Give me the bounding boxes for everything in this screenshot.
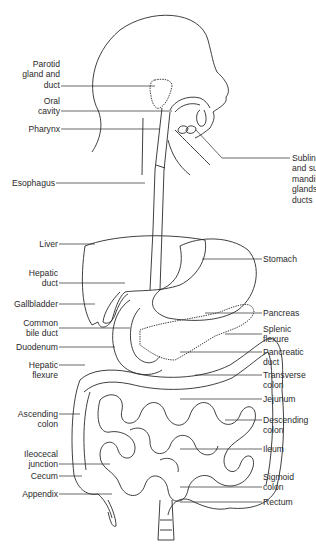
label-rectum: Rectum <box>263 497 293 507</box>
label-liver: Liver <box>39 239 58 249</box>
label-ileum: Ileum <box>263 444 284 454</box>
label-jejunum: Jejunum <box>263 394 295 404</box>
label-pancreas: Pancreas <box>263 308 299 318</box>
label-sigmoid-colon: Sigmoid colon <box>263 472 294 493</box>
label-cecum: Cecum <box>31 471 58 481</box>
label-ascending-colon: Ascending colon <box>18 409 58 430</box>
label-esophagus: Esophagus <box>12 178 55 188</box>
label-hepatic-flexure: Hepatic flexure <box>29 360 58 381</box>
label-descending-colon: Descending colon <box>263 415 308 436</box>
label-common-bile-duct: Common bile duct <box>23 318 58 339</box>
digestive-system-diagram: Parotid gland and duct Oral cavity Phary… <box>0 0 316 544</box>
liver-shape <box>82 236 205 327</box>
label-duodenum: Duodenum <box>16 342 58 352</box>
label-hepatic-duct: Hepatic duct <box>29 268 58 289</box>
label-pharynx: Pharynx <box>28 124 60 134</box>
label-stomach: Stomach <box>263 254 297 264</box>
head-outline <box>92 15 228 152</box>
small-intestine <box>98 395 255 501</box>
label-oral-cavity: Oral cavity <box>38 96 60 117</box>
label-transverse-colon: Transverse colon <box>263 370 306 391</box>
label-splenic-flexure: Splenic flexure <box>263 324 291 345</box>
label-appendix: Appendix <box>22 489 58 499</box>
label-sublingual-glands: Sublingual and sub- mandibular glands an… <box>292 153 316 205</box>
label-gallbladder: Gallbladder <box>14 299 58 309</box>
label-parotid-gland: Parotid gland and duct <box>22 59 60 90</box>
label-ileocecal-junction: Ileocecal junction <box>24 449 58 470</box>
stomach-shape <box>152 239 256 320</box>
label-pancreatic-duct: Pancreatic duct <box>263 347 304 368</box>
